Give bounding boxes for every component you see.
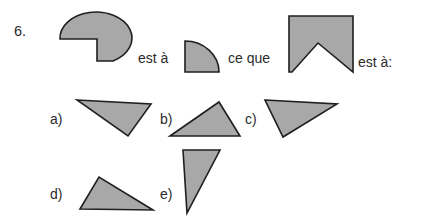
- option-b-triangle-icon[interactable]: [170, 102, 240, 136]
- shape-notched-rectangle-icon: [289, 16, 353, 72]
- option-d-triangle-icon[interactable]: [80, 177, 153, 210]
- figure-canvas: [0, 0, 422, 221]
- question-card: 6. est à ce que est à: a) b) c) d) e): [0, 0, 422, 221]
- shape-pacman-ellipse-icon: [60, 12, 132, 61]
- shape-quarter-circle-icon: [185, 41, 219, 72]
- option-c-triangle-icon[interactable]: [265, 100, 337, 137]
- option-e-triangle-icon[interactable]: [183, 150, 220, 213]
- option-a-triangle-icon[interactable]: [77, 100, 151, 136]
